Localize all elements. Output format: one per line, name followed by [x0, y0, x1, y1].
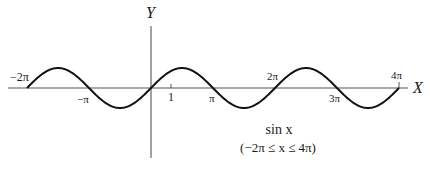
tick-label-one: 1	[168, 90, 174, 104]
tick-label-pi: π	[209, 92, 215, 104]
tick-label-3pi: 3π	[329, 92, 341, 104]
caption-range: (−2π ≤ x ≤ 4π)	[240, 140, 316, 155]
y-axis-label: Y	[146, 4, 157, 21]
sine-graph: Y X −2π −π 1 π 2π 3π 4π sin x (−2π ≤ x ≤…	[0, 0, 430, 169]
tick-label-2pi: 2π	[267, 70, 279, 82]
tick-label-4pi: 4π	[391, 69, 403, 81]
tick-label-neg2pi: −2π	[10, 70, 29, 84]
tick-label-negpi: −π	[77, 93, 89, 105]
caption-function: sin x	[266, 122, 293, 137]
x-axis-label: X	[412, 79, 424, 96]
